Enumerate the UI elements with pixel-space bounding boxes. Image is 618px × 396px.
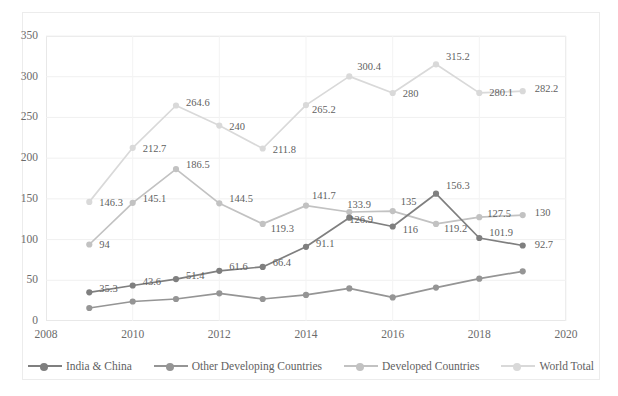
series-marker (390, 294, 396, 300)
series-marker (303, 292, 309, 298)
data-label: 186.5 (186, 160, 210, 171)
series-marker (173, 276, 179, 282)
legend-label: Other Developing Countries (192, 360, 322, 372)
data-label: 116 (403, 225, 418, 236)
series-marker (390, 90, 396, 96)
series-marker (260, 145, 266, 151)
series-marker (173, 102, 179, 108)
y-tick-label: 50 (4, 274, 38, 286)
series-marker (216, 290, 222, 296)
series-marker (476, 214, 482, 220)
x-tick-label: 2016 (363, 329, 423, 341)
series-marker (216, 268, 222, 274)
series-marker (390, 208, 396, 214)
data-label: 127.5 (487, 209, 511, 220)
series-marker (216, 200, 222, 206)
series-marker (433, 61, 439, 67)
data-label: 212.7 (143, 144, 167, 155)
data-label: 144.5 (229, 194, 253, 205)
data-label: 265.2 (312, 105, 336, 116)
series-marker (260, 221, 266, 227)
chart-legend: India & ChinaOther Developing CountriesD… (46, 356, 576, 376)
data-label: 119.3 (271, 224, 294, 235)
x-tick-label: 2010 (103, 329, 163, 341)
y-tick-label: 300 (4, 71, 38, 83)
series-marker (86, 241, 92, 247)
data-label: 126.9 (349, 215, 373, 226)
legend-label: Developed Countries (382, 360, 479, 372)
legend-swatch-icon (344, 361, 378, 371)
data-label: 280 (403, 89, 419, 100)
data-label: 315.2 (446, 52, 470, 63)
series-marker (303, 102, 309, 108)
series-marker (476, 276, 482, 282)
data-label: 135 (401, 197, 417, 208)
y-tick-label: 0 (4, 315, 38, 327)
series-marker (130, 200, 136, 206)
y-tick-label: 250 (4, 111, 38, 123)
data-label: 61.6 (229, 262, 247, 273)
series-marker (86, 289, 92, 295)
series-marker (303, 203, 309, 209)
data-label: 94 (99, 240, 110, 251)
x-tick-label: 2008 (16, 329, 76, 341)
series-marker (520, 268, 526, 274)
data-label: 51.4 (186, 271, 204, 282)
series-marker (346, 73, 352, 79)
series-marker (476, 90, 482, 96)
data-label: 66.4 (273, 258, 291, 269)
data-label: 240 (229, 122, 245, 133)
series-marker (130, 282, 136, 288)
data-label: 35.3 (99, 284, 117, 295)
data-label: 264.6 (186, 98, 210, 109)
legend-label: World Total (539, 360, 594, 372)
data-label: 43.6 (143, 277, 161, 288)
data-label: 156.3 (446, 181, 470, 192)
series-marker (130, 298, 136, 304)
series-marker (433, 191, 439, 197)
data-label: 141.7 (312, 191, 336, 202)
series-marker (260, 264, 266, 270)
data-label: 146.3 (99, 198, 123, 209)
data-label: 92.7 (535, 240, 553, 251)
legend-item[interactable]: World Total (501, 360, 594, 372)
series-marker (433, 221, 439, 227)
data-label: 91.1 (316, 239, 334, 250)
series-marker (520, 88, 526, 94)
series-marker (476, 235, 482, 241)
legend-item[interactable]: Developed Countries (344, 360, 479, 372)
y-tick-label: 100 (4, 234, 38, 246)
x-tick-label: 2014 (276, 329, 336, 341)
data-label: 300.4 (357, 62, 381, 73)
series-marker (520, 242, 526, 248)
legend-label: India & China (66, 360, 132, 372)
series-marker (346, 285, 352, 291)
series-marker (433, 285, 439, 291)
legend-item[interactable]: India & China (28, 360, 132, 372)
y-tick-label: 150 (4, 193, 38, 205)
legend-swatch-icon (501, 361, 535, 371)
series-marker (86, 305, 92, 311)
data-label: 119.2 (444, 224, 467, 235)
data-label: 280.1 (489, 88, 513, 99)
series-marker (86, 199, 92, 205)
x-tick-label: 2018 (449, 329, 509, 341)
y-tick-label: 350 (4, 30, 38, 42)
series-marker (390, 223, 396, 229)
series-marker (173, 296, 179, 302)
series-marker (130, 145, 136, 151)
legend-item[interactable]: Other Developing Countries (154, 360, 322, 372)
data-label: 101.9 (489, 228, 513, 239)
series-marker (303, 244, 309, 250)
x-tick-label: 2020 (536, 329, 596, 341)
legend-swatch-icon (28, 361, 62, 371)
y-tick-label: 200 (4, 152, 38, 164)
series-marker (216, 123, 222, 129)
series-marker (520, 212, 526, 218)
data-label: 211.8 (273, 145, 296, 156)
data-label: 130 (535, 208, 551, 219)
series-marker (173, 166, 179, 172)
line-chart: 050100150200250300350 200820102012201420… (0, 0, 618, 396)
data-label: 133.9 (347, 200, 371, 211)
data-label: 145.1 (143, 194, 167, 205)
